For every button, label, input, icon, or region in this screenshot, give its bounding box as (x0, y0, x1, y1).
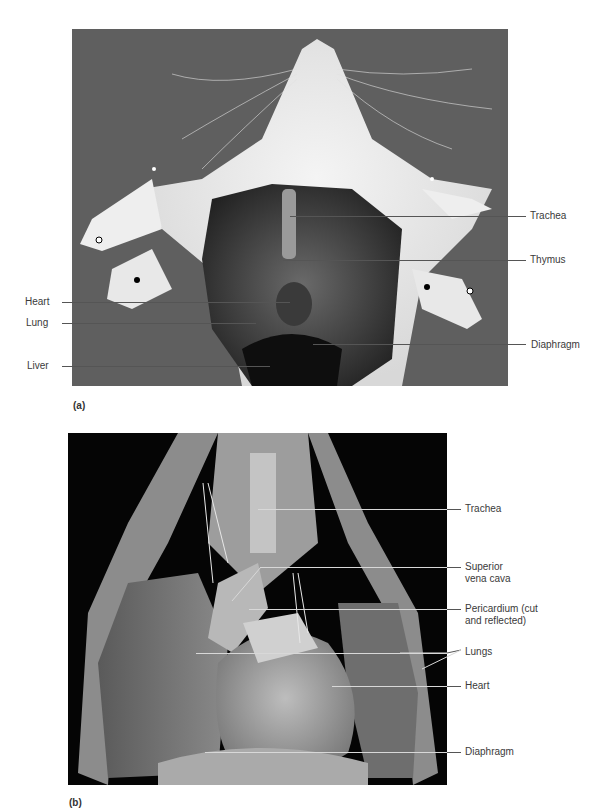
leader-line-diaphragm-a (313, 344, 506, 345)
leader-tail (447, 567, 461, 568)
label-liver-a: Liver (27, 360, 49, 372)
leader-line-heart (62, 302, 290, 303)
label-heart-a: Heart (25, 296, 49, 308)
label-heart-b: Heart (465, 680, 489, 692)
leader-line-pericardium (249, 609, 447, 610)
label-pericardium-line1: Pericardium (cut (465, 603, 538, 615)
leader-tail (447, 509, 461, 510)
label-diaphragm-a: Diaphragm (531, 339, 580, 351)
panel-tag-a: (a) (73, 400, 85, 411)
leader-line-diaphragm-b (205, 752, 447, 753)
leader-tail (506, 216, 526, 217)
leader-line-svc-diagonal (230, 567, 262, 603)
panel-tag-b: (b) (69, 797, 82, 808)
label-lungs: Lungs (465, 646, 492, 658)
leader-line-lung (62, 323, 256, 324)
label-trachea-b: Trachea (465, 503, 501, 515)
leader-line-svc (260, 567, 447, 568)
leader-tail (447, 752, 461, 753)
leader-line-trachea-b (258, 509, 447, 510)
leader-line-thymus (283, 260, 506, 261)
leader-line-heart-b (332, 686, 447, 687)
label-trachea-a: Trachea (530, 210, 566, 222)
leader-line-liver (62, 366, 270, 367)
leader-tail (506, 260, 526, 261)
label-thymus: Thymus (530, 254, 566, 266)
label-svc-line2: vena cava (465, 573, 511, 585)
label-diaphragm-b: Diaphragm (465, 746, 514, 758)
leader-tail (447, 609, 461, 610)
leader-tail (447, 686, 461, 687)
rat-dissection-photo (72, 29, 508, 386)
label-svc-line1: Superior (465, 561, 503, 573)
label-pericardium-line2: and reflected) (465, 615, 526, 627)
leader-line-trachea-a (290, 216, 506, 217)
leader-tail (506, 344, 526, 345)
leader-line-lungs-fork (400, 649, 462, 671)
label-lung-a: Lung (26, 317, 48, 329)
